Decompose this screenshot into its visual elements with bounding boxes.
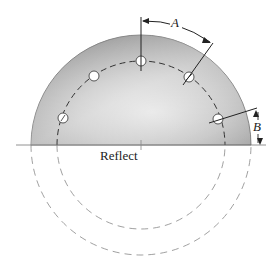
bolt-circle-diagram: A B Reflect [0, 0, 277, 273]
angle-label-A: A [170, 15, 179, 30]
reflected-bolt-circle [57, 145, 225, 229]
reflect-label: Reflect [100, 148, 138, 163]
reflected-outer-circle [31, 145, 251, 255]
offset-label-B: B [253, 119, 261, 134]
arrowhead-A-left [142, 18, 149, 24]
hole-upper-left [89, 71, 99, 81]
